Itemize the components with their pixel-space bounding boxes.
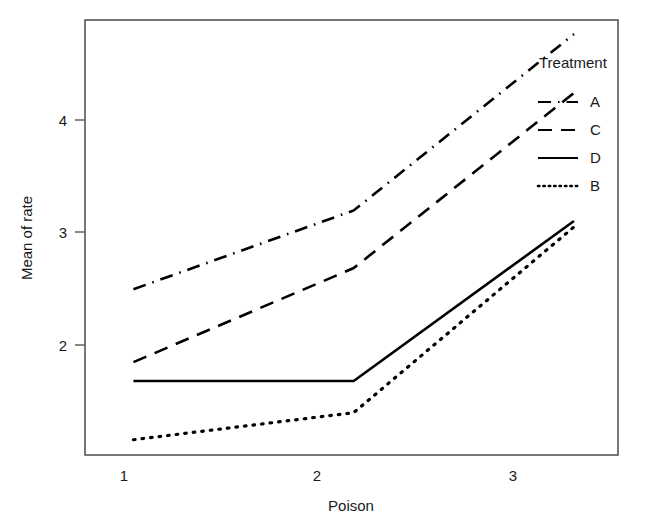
y-tick-label-2: 2 [59, 337, 67, 354]
chart-background [0, 0, 645, 520]
interaction-plot: 4 3 2 1 2 3 Poison Mean of rate Treatmen… [0, 0, 645, 520]
y-axis-title: Mean of rate [18, 196, 35, 280]
y-tick-label-4: 4 [59, 112, 67, 129]
x-tick-label-2: 2 [313, 467, 321, 484]
legend-label-D: D [590, 149, 601, 166]
x-axis-title: Poison [328, 497, 374, 514]
y-tick-label-3: 3 [59, 224, 67, 241]
legend-label-B: B [590, 177, 600, 194]
legend-title: Treatment [539, 54, 608, 71]
legend-label-C: C [590, 121, 601, 138]
x-tick-label-1: 1 [120, 467, 128, 484]
x-tick-label-3: 3 [509, 467, 517, 484]
chart-container: 4 3 2 1 2 3 Poison Mean of rate Treatmen… [0, 0, 645, 520]
legend-label-A: A [590, 93, 600, 110]
